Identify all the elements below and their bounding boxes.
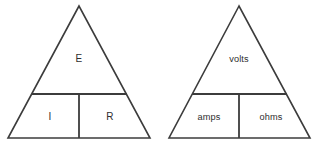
ohms-law-diagram: E I R volts amps ohms: [0, 0, 318, 148]
diagram-canvas: E I R volts amps ohms: [0, 0, 318, 148]
cell-label-top-symbols: E: [76, 53, 83, 64]
cell-label-bottom-left-symbols: I: [49, 111, 52, 122]
ohms-law-triangle-units: volts amps ohms: [169, 6, 310, 138]
ohms-law-triangle-symbols: E I R: [8, 6, 150, 138]
cell-label-bottom-right-symbols: R: [106, 111, 113, 122]
cell-label-top-units: volts: [229, 54, 249, 64]
cell-label-bottom-right-units: ohms: [260, 112, 283, 122]
cell-label-bottom-left-units: amps: [198, 112, 221, 122]
